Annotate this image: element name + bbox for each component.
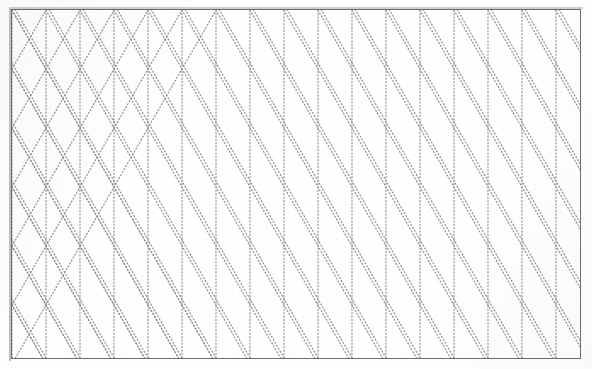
dot-grid-sheet — [0, 0, 592, 369]
page-border-frame — [11, 9, 581, 359]
